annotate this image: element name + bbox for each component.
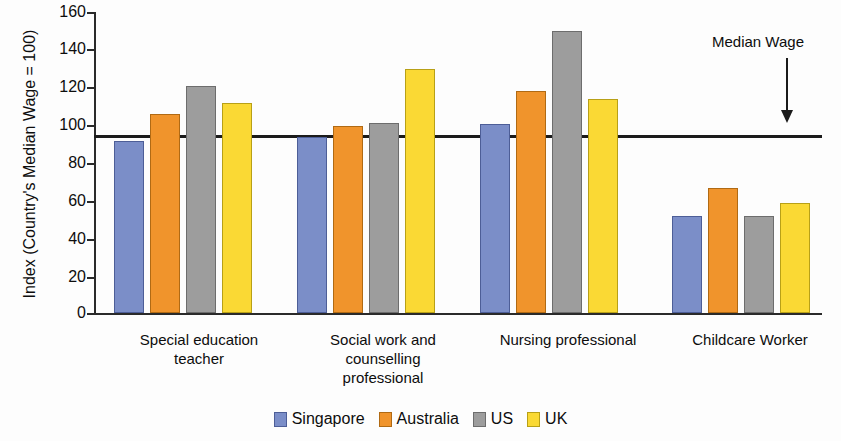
bar-social-work-singapore[interactable] [297,137,327,313]
legend-label-australia: Australia [397,410,459,428]
bar-childcare-worker-singapore[interactable] [672,216,702,313]
legend-swatch-australia-icon [379,412,392,427]
median-wage-annotation-label: Median Wage [712,33,804,50]
legend-label-singapore: Singapore [292,410,365,428]
y-tick-label-120: 120 [26,79,86,95]
x-axis-group-label-special-education-teacher: Special education teacher [104,330,294,368]
group-label-line: Special education [104,330,294,349]
group-label-line: Nursing professional [468,330,668,349]
bar-social-work-uk[interactable] [405,69,435,313]
y-tick-label-160: 160 [26,4,86,20]
y-tick-label-20: 20 [26,269,86,285]
bar-childcare-worker-uk[interactable] [780,203,810,313]
y-tick-140 [87,49,95,51]
bar-nursing-professional-uk[interactable] [588,99,618,313]
bar-childcare-worker-us[interactable] [744,216,774,313]
group-label-line: counselling [288,349,478,368]
y-tick-label-80: 80 [26,155,86,171]
chart-canvas: Index (Country's Median Wage = 100) 160 … [0,0,841,441]
legend-label-uk: UK [545,410,567,428]
x-axis-group-label-social-work: Social work and counselling professional [288,330,478,387]
y-tick-label-0: 0 [26,305,86,321]
plot-area: 160 140 120 100 80 60 40 20 0 [94,12,822,315]
bar-nursing-professional-singapore[interactable] [480,124,510,313]
y-tick-label-140: 140 [26,41,86,57]
group-label-line: professional [288,368,478,387]
bar-special-education-teacher-us[interactable] [186,86,216,313]
group-label-line: Childcare Worker [660,330,840,349]
bar-social-work-australia[interactable] [333,126,363,313]
y-tick-label-60: 60 [26,193,86,209]
y-tick-160 [87,12,95,14]
bar-nursing-professional-us[interactable] [552,31,582,313]
x-axis-line [94,313,822,315]
y-tick-80 [87,163,95,165]
y-tick-label-40: 40 [26,231,86,247]
legend-item-us[interactable]: US [473,410,513,428]
chart-legend: Singapore Australia US UK [0,410,841,428]
bar-childcare-worker-australia[interactable] [708,188,738,313]
legend-item-australia[interactable]: Australia [379,410,459,428]
y-tick-60 [87,201,95,203]
y-tick-label-100: 100 [26,117,86,133]
bar-special-education-teacher-singapore[interactable] [114,141,144,313]
bar-nursing-professional-australia[interactable] [516,91,546,313]
y-tick-0 [87,313,95,315]
x-axis-group-label-nursing-professional: Nursing professional [468,330,668,349]
group-label-line: Social work and [288,330,478,349]
bar-special-education-teacher-australia[interactable] [150,114,180,313]
y-tick-100 [87,125,95,127]
bar-special-education-teacher-uk[interactable] [222,103,252,313]
legend-item-singapore[interactable]: Singapore [274,410,365,428]
group-label-line: teacher [104,349,294,368]
legend-swatch-uk-icon [527,412,540,427]
y-tick-40 [87,239,95,241]
legend-swatch-us-icon [473,412,486,427]
legend-item-uk[interactable]: UK [527,410,567,428]
y-tick-120 [87,87,95,89]
x-axis-group-label-childcare-worker: Childcare Worker [660,330,840,349]
legend-label-us: US [491,410,513,428]
legend-swatch-singapore-icon [274,412,287,427]
bar-social-work-us[interactable] [369,123,399,313]
median-wage-arrow-shaft [786,58,788,113]
y-tick-20 [87,277,95,279]
median-wage-arrow-head-icon [781,110,793,123]
